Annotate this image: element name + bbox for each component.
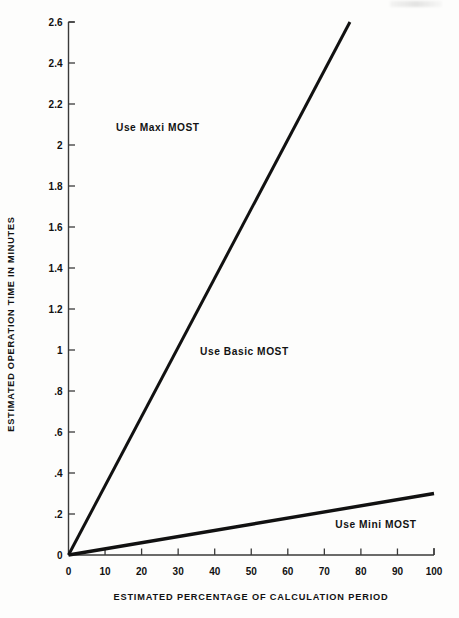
y-tick-label: .2 [20,509,63,520]
axis-ticks [69,22,435,555]
x-tick-label: 80 [355,566,366,577]
x-tick-label: 90 [392,566,403,577]
axis-lines [69,22,435,555]
y-tick-label: 1.4 [20,263,63,274]
y-tick-label: 2.4 [20,58,63,69]
region-label: Use Maxi MOST [116,122,200,133]
x-tick-label: 100 [426,566,443,577]
x-tick-label: 40 [209,566,220,577]
y-tick-label: 2.2 [20,99,63,110]
x-axis-title: ESTIMATED PERCENTAGE OF CALCULATION PERI… [68,592,434,602]
y-tick-label: 1.8 [20,181,63,192]
chart-figure: 0.2.4.6.811.21.41.61.822.22.42.6 0102030… [0,0,459,618]
x-tick-label: 60 [282,566,293,577]
y-tick-label: 2.6 [20,17,63,28]
region-label: Use Mini MOST [335,519,416,530]
y-tick-label: 1.2 [20,304,63,315]
data-series-lines [69,22,435,555]
x-tick-label: 50 [246,566,257,577]
y-tick-label: 0 [20,550,63,561]
x-tick-label: 10 [99,566,110,577]
x-tick-label: 30 [173,566,184,577]
y-tick-label: 1 [20,345,63,356]
series-line [69,22,350,555]
x-tick-label: 0 [66,566,72,577]
x-tick-label: 20 [136,566,147,577]
x-tick-label: 70 [319,566,330,577]
y-tick-label: .4 [20,468,63,479]
y-tick-label: .6 [20,427,63,438]
y-tick-label: .8 [20,386,63,397]
y-tick-label: 2 [20,140,63,151]
y-tick-label: 1.6 [20,222,63,233]
region-label: Use Basic MOST [200,346,289,357]
